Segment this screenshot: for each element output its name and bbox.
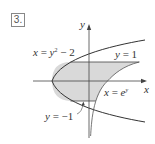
y-axis-label: y (79, 18, 85, 30)
parabola-label: x = y2 − 2 (32, 46, 75, 58)
leader-arrowhead-icon (82, 102, 85, 106)
x-axis-label: x (143, 83, 149, 95)
exponential-label: x = ey (103, 86, 129, 98)
upper-line-label: y = 1 (114, 48, 137, 60)
y-axis-arrow-icon (87, 24, 91, 30)
lower-line-label: y = −1 (44, 110, 73, 122)
region-diagram: y x x = y2 − 2 y = 1 x = ey y = −1 (0, 0, 155, 144)
shaded-region (52, 62, 139, 101)
